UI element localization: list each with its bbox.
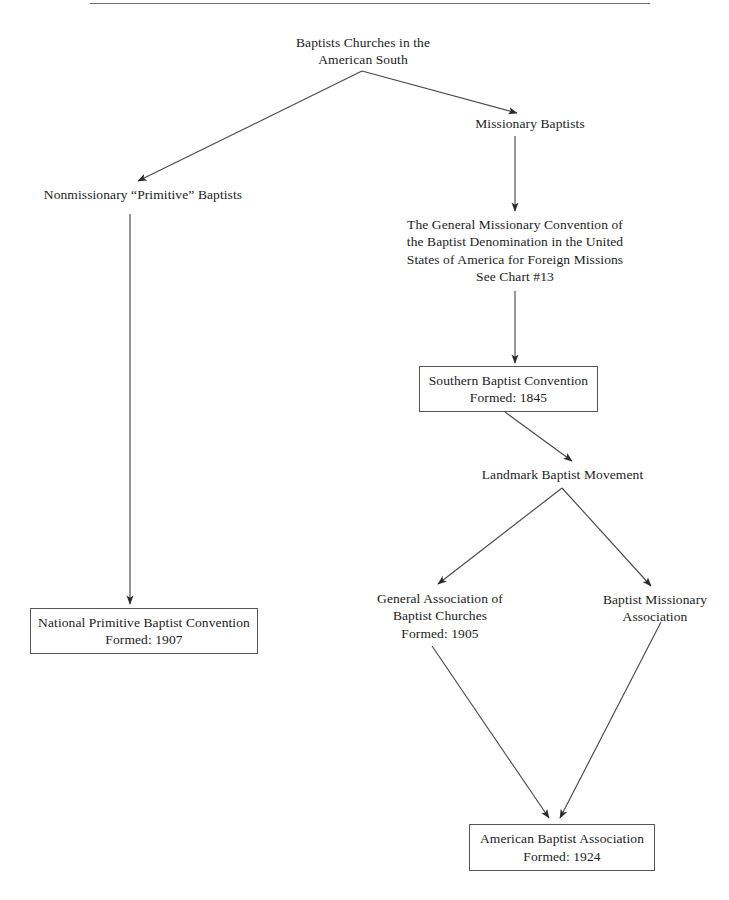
node-label-line: American Baptist Association	[480, 830, 644, 847]
edge-root-to-nonmissionary	[138, 71, 362, 181]
node-label-line: Southern Baptist Convention	[429, 372, 588, 389]
header-divider-rule	[90, 3, 650, 4]
node-general-association-baptist-churches: General Association ofBaptist ChurchesFo…	[370, 590, 510, 642]
node-label-line: Baptists Churches in the	[268, 34, 458, 51]
node-label-line: Landmark Baptist Movement	[470, 466, 655, 483]
node-label-line: Baptist Missionary	[595, 591, 715, 608]
node-label-line: Formed: 1924	[523, 848, 600, 865]
node-label-line: See Chart #13	[395, 268, 635, 285]
node-label-line: Formed: 1907	[105, 631, 182, 648]
edge-root-to-missionary	[362, 71, 517, 113]
edge-sbc-to-landmark	[505, 412, 572, 461]
node-label-line: Formed: 1845	[470, 389, 547, 406]
diagram-edges-layer	[0, 0, 729, 900]
node-label-line: Formed: 1905	[370, 625, 510, 642]
node-label-line: Association	[595, 608, 715, 625]
node-missionary-baptists: Missionary Baptists	[455, 115, 605, 132]
node-label-line: National Primitive Baptist Convention	[38, 614, 250, 631]
node-landmark-baptist-movement: Landmark Baptist Movement	[470, 466, 655, 483]
node-nonmissionary-primitive-baptists: Nonmissionary “Primitive” Baptists	[28, 186, 258, 203]
node-label-line: The General Missionary Convention of	[395, 216, 635, 233]
node-label-line: Baptist Churches	[370, 607, 510, 624]
edge-general-association-to-american	[432, 646, 549, 818]
node-label-line: General Association of	[370, 590, 510, 607]
node-southern-baptist-convention: Southern Baptist ConventionFormed: 1845	[419, 366, 598, 412]
node-label-line: the Baptist Denomination in the United	[395, 233, 635, 250]
node-baptist-missionary-association: Baptist MissionaryAssociation	[595, 591, 715, 626]
node-label-line: Nonmissionary “Primitive” Baptists	[28, 186, 258, 203]
edge-landmark-to-general-association	[438, 488, 562, 584]
org-chart-diagram: Baptists Churches in theAmerican SouthMi…	[0, 0, 729, 900]
node-national-primitive-baptist-convention: National Primitive Baptist ConventionFor…	[30, 608, 258, 654]
node-american-baptist-association: American Baptist AssociationFormed: 1924	[469, 824, 655, 871]
node-label-line: States of America for Foreign Missions	[395, 251, 635, 268]
node-label-line: American South	[268, 51, 458, 68]
edge-group	[130, 71, 661, 818]
edge-landmark-to-baptist-missionary	[562, 488, 651, 586]
node-general-missionary-convention: The General Missionary Convention ofthe …	[395, 216, 635, 285]
node-label-line: Missionary Baptists	[455, 115, 605, 132]
edge-baptist-missionary-to-american	[560, 622, 661, 818]
node-baptist-churches-american-south: Baptists Churches in theAmerican South	[268, 34, 458, 69]
